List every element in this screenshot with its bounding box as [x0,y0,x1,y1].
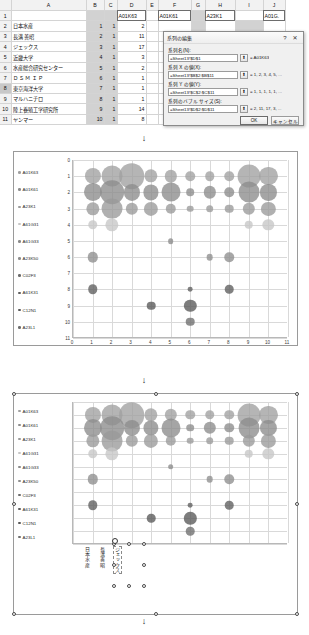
cell-D6[interactable]: 2 [117,62,146,72]
legend-item[interactable]: A61G31 [18,446,60,460]
data-bubble[interactable] [87,252,97,262]
legend-item[interactable]: A61G33 [18,460,60,474]
cell-C5[interactable]: 1 [104,52,117,62]
cell-B3[interactable]: 2 [86,31,104,41]
cell-E1[interactable] [146,10,158,20]
cell-E6[interactable] [146,62,158,72]
column-header-F[interactable]: F [158,0,191,10]
data-bubble[interactable] [168,238,174,244]
cell-A4[interactable]: ジェックス [11,42,86,52]
data-bubble[interactable] [145,170,158,183]
data-bubble[interactable] [225,171,235,181]
legend-item[interactable]: A01K61 [18,418,60,432]
column-header-C[interactable]: C [104,0,117,10]
data-bubble[interactable] [186,171,196,181]
legend-item[interactable]: A01K63 [18,404,60,418]
data-bubble[interactable] [205,410,215,420]
row-header-11[interactable]: 11 [0,114,11,124]
data-bubble[interactable] [186,410,196,420]
range-picker-icon[interactable]: ⬆ [240,54,248,62]
cell-D2[interactable]: 2 [117,21,146,31]
selection-handle[interactable] [12,392,16,396]
cell-B7[interactable]: 6 [86,73,104,83]
data-bubble[interactable] [225,410,235,420]
formula-input[interactable]: =Sheet13!$C$2:$C$11 [168,88,238,96]
data-bubble[interactable] [186,527,195,536]
row-header-3[interactable]: 3 [0,31,11,41]
range-picker-icon[interactable]: ⬆ [240,105,248,113]
data-bubble[interactable] [147,514,156,523]
data-bubble[interactable] [84,183,102,201]
cell-F2[interactable] [158,21,191,31]
data-bubble[interactable] [225,436,234,445]
bubble-chart-1[interactable]: A01K63A01K61A23K1A61G31A61G33A23K50C02F3… [13,151,298,346]
data-bubble[interactable] [86,202,99,215]
help-icon[interactable]: ? [280,35,290,41]
cell-I1[interactable] [235,10,263,20]
row-header-2[interactable]: 2 [0,21,11,31]
cell-C4[interactable]: 1 [104,42,117,52]
row-header-5[interactable]: 5 [0,52,11,62]
data-bubble[interactable] [125,202,137,214]
legend-item[interactable]: A23K1 [18,198,60,215]
legend-item[interactable]: A61K31 [18,284,60,301]
bubble-chart-2[interactable]: A01K63A01K61A23K1A61G31A61G33A23K50C02F3… [13,393,298,615]
dialog-titlebar[interactable]: 系列の編集 ? ✕ [164,32,303,44]
cell-D1-series-name[interactable]: A01K63 [117,10,146,20]
data-bubble[interactable] [263,448,274,459]
data-bubble[interactable] [161,183,180,202]
data-bubble[interactable] [188,287,193,292]
cancel-button[interactable]: キャンセル [271,116,299,125]
data-bubble[interactable] [260,184,276,200]
data-bubble[interactable] [238,182,259,203]
data-bubble[interactable] [245,449,254,458]
cell-C1[interactable] [104,10,117,20]
ok-button[interactable]: OK [240,116,268,125]
cell-G2[interactable] [191,21,205,31]
column-header-G[interactable]: G [191,0,205,10]
data-bubble[interactable] [225,423,235,433]
cell-C8[interactable]: 1 [104,83,117,93]
chart-legend[interactable]: A01K63A01K61A23K1A61G31A61G33A23K50C02F3… [18,164,60,336]
column-header-E[interactable]: E [146,0,158,10]
data-bubble[interactable] [206,205,214,213]
column-header-J[interactable]: J [263,0,285,10]
label-selection-group[interactable] [114,544,144,586]
selection-handle[interactable] [154,392,158,396]
cell-D7[interactable]: 1 [117,73,146,83]
data-bubble[interactable] [88,449,98,459]
row-header-7[interactable]: 7 [0,73,11,83]
data-bubble[interactable] [187,437,194,444]
cell-E4[interactable] [146,42,158,52]
data-bubble[interactable] [168,464,174,470]
column-header-I[interactable]: I [235,0,263,10]
cell-D4[interactable]: 17 [117,42,146,52]
column-header-A[interactable]: A [11,0,86,10]
grid-corner[interactable] [0,0,11,10]
legend-item[interactable]: C02F3 [18,488,60,502]
data-bubble[interactable] [147,301,156,310]
row-header-10[interactable]: 10 [0,104,11,114]
data-bubble[interactable] [206,437,214,445]
legend-item[interactable]: A23L1 [18,319,60,336]
legend-item[interactable]: A23L1 [18,530,60,544]
data-bubble[interactable] [186,424,194,432]
selection-handle[interactable] [127,542,131,546]
data-bubble[interactable] [225,204,234,213]
cell-C2[interactable]: 1 [104,21,117,31]
data-bubble[interactable] [166,203,176,213]
cell-B6[interactable]: 5 [86,62,104,72]
rotation-handle-icon[interactable] [112,538,118,544]
legend-item[interactable]: C12N1 [18,302,60,319]
column-header-B[interactable]: B [86,0,104,10]
cell-A3[interactable]: 長溝 善昭 [11,31,86,41]
row-header-4[interactable]: 4 [0,42,11,52]
data-bubble[interactable] [125,435,137,447]
data-bubble[interactable] [105,218,118,231]
y-axis[interactable]: 01234567891011 [58,160,70,338]
selection-handle[interactable] [112,584,116,588]
legend-item[interactable]: C02F3 [18,267,60,284]
data-bubble[interactable] [184,299,196,311]
selection-handle[interactable] [112,563,116,567]
cell-A8[interactable]: 東京海洋大学 [11,83,86,93]
